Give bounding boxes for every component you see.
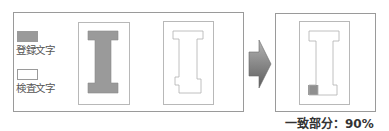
- registered-character-glyph: [78, 22, 130, 105]
- legend-inspected-label: 検査文字: [16, 80, 54, 95]
- overlap-character-glyph: [299, 21, 350, 105]
- inspected-character-glyph: [163, 21, 214, 105]
- right-arrow-icon: [247, 38, 272, 90]
- legend-inspected-swatch: [17, 69, 38, 80]
- match-percentage-caption: 一致部分：90%: [285, 114, 374, 131]
- legend-registered-swatch: [17, 31, 38, 42]
- legend-registered-label: 登録文字: [16, 42, 54, 57]
- mismatch-region: [308, 85, 318, 95]
